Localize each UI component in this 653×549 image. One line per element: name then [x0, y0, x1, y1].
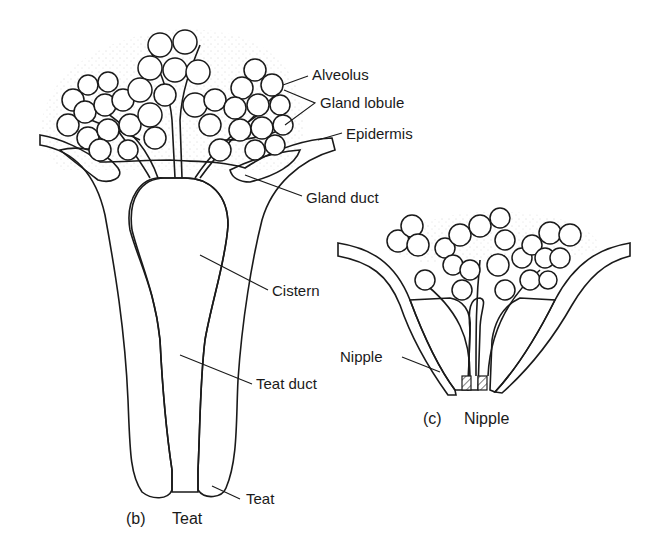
label-nipple: Nipple: [340, 348, 383, 365]
panel-c-nipple: Nipple (c) Nipple: [338, 208, 630, 427]
label-cistern: Cistern: [272, 282, 320, 299]
label-teat-duct: Teat duct: [256, 375, 318, 392]
label-alveolus: Alveolus: [312, 66, 369, 83]
caption-letter-b: (b): [126, 510, 146, 527]
panel-b-teat: Alveolus Gland lobule Epidermis Gland du…: [40, 29, 413, 527]
teat-wall: [40, 135, 335, 498]
cistern: [131, 178, 228, 492]
nipple-interior: [410, 298, 470, 390]
label-gland-duct: Gland duct: [306, 189, 379, 206]
duct-tip-2: [478, 376, 487, 390]
duct-tip-1: [462, 376, 471, 390]
mammary-gland-diagram: Alveolus Gland lobule Epidermis Gland du…: [0, 0, 653, 549]
caption-title-c: Nipple: [464, 410, 509, 427]
caption-title-b: Teat: [172, 510, 203, 527]
label-epidermis: Epidermis: [346, 125, 413, 142]
caption-letter-c: (c): [423, 410, 442, 427]
leader-nipple: [402, 357, 440, 372]
label-teat: Teat: [246, 490, 275, 507]
nipple-wall-left: [338, 243, 456, 395]
label-gland-lobule: Gland lobule: [320, 94, 404, 111]
